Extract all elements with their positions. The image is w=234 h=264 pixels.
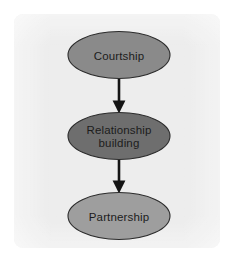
edge-courtship-to-relationship bbox=[113, 79, 126, 114]
arrow-head-icon bbox=[113, 181, 126, 194]
node-relationship-building[interactable]: Relationship building bbox=[68, 113, 170, 160]
node-label: Partnership bbox=[89, 211, 149, 223]
node-label: Courtship bbox=[94, 50, 145, 62]
node-label-line-1: Relationship bbox=[86, 124, 151, 136]
edge-relationship-to-partnership bbox=[113, 160, 126, 194]
figure-root: Courtship Relationship building Partners… bbox=[0, 0, 234, 264]
node-label-line-2: building bbox=[99, 137, 140, 149]
node-shape bbox=[68, 113, 170, 160]
arrow-head-icon bbox=[113, 101, 126, 114]
node-partnership[interactable]: Partnership bbox=[68, 193, 170, 240]
flowchart-canvas: Courtship Relationship building Partners… bbox=[0, 0, 234, 264]
node-courtship[interactable]: Courtship bbox=[68, 32, 170, 79]
